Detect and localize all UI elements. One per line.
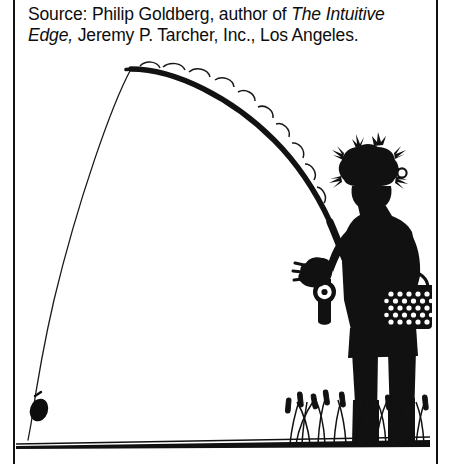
rod-guides <box>140 62 325 203</box>
right-boot <box>388 398 415 444</box>
gripping-hand <box>293 257 333 287</box>
fishing-line <box>28 69 131 440</box>
sinker <box>27 392 51 424</box>
fishing-hat <box>329 132 408 189</box>
fishing-rod <box>126 62 345 259</box>
illustration-figure: Source: Philip Goldberg, author of The I… <box>0 0 450 464</box>
fisherman-illustration <box>0 0 450 464</box>
